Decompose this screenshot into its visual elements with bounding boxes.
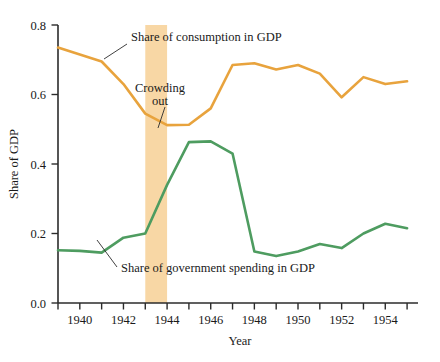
chart-figure: 0.0 0.2 0.4 0.6 0.8 19401942194419461948… xyxy=(0,0,440,362)
x-tick-label: 1948 xyxy=(242,313,267,327)
x-tick-label: 1954 xyxy=(373,313,399,327)
consumption-share-line xyxy=(58,48,407,125)
x-tick-label: 1940 xyxy=(67,313,92,327)
x-tick-label: 1950 xyxy=(286,313,311,327)
y-tick-label: 0.6 xyxy=(30,88,46,102)
x-axis-title: Year xyxy=(228,334,252,348)
y-axis-title: Share of GDP xyxy=(7,129,21,199)
x-tick-label: 1946 xyxy=(198,313,223,327)
y-tick-label: 0.4 xyxy=(30,158,46,172)
y-tick-label: 0.8 xyxy=(30,19,46,33)
y-tick-label: 0.2 xyxy=(30,227,46,241)
y-tick-label: 0.0 xyxy=(30,297,46,311)
x-axis-ticks xyxy=(58,303,407,310)
gdp-shares-line-chart: 0.0 0.2 0.4 0.6 0.8 19401942194419461948… xyxy=(0,0,440,362)
y-axis-tick-labels: 0.0 0.2 0.4 0.6 0.8 xyxy=(30,19,46,311)
government-spending-share-line xyxy=(58,141,407,256)
x-axis-tick-labels: 19401942194419461948195019521954 xyxy=(67,313,398,327)
consumption-series-label: Share of consumption in GDP xyxy=(131,30,282,44)
x-tick-label: 1952 xyxy=(329,313,354,327)
crowding-out-label-line2: out xyxy=(152,94,169,108)
y-axis-ticks xyxy=(52,25,59,303)
x-tick-label: 1942 xyxy=(111,313,136,327)
x-tick-label: 1944 xyxy=(155,313,181,327)
crowding-out-label-line1: Crowding xyxy=(135,81,186,95)
government-series-label: Share of government spending in GDP xyxy=(121,261,315,275)
consumption-leader-line xyxy=(104,44,127,59)
